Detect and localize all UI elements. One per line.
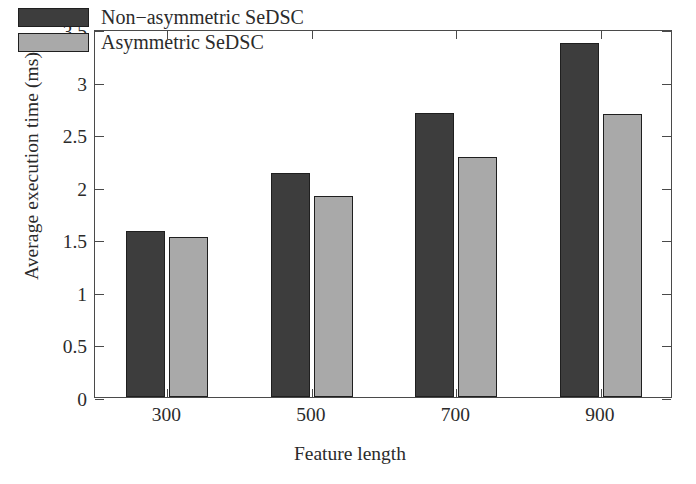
bar-500-series-1 (314, 196, 353, 397)
y-tick-label-3: 3 (77, 73, 95, 95)
y-tick-right-1 (662, 294, 671, 295)
x-tick-300 (167, 389, 168, 397)
y-tick-right-3.5 (662, 31, 671, 32)
bar-300-series-1 (169, 237, 208, 397)
y-tick-right-1.5 (662, 241, 671, 242)
y-tick-1: 1 (95, 294, 104, 295)
bar-700-series-1 (458, 157, 497, 397)
x-tick-label-300: 300 (152, 404, 181, 426)
y-tick-label-1: 1 (77, 283, 95, 305)
x-tick-label-500: 500 (296, 404, 325, 426)
bar-300-series-0 (126, 231, 165, 397)
x-tick-top-900 (601, 31, 602, 39)
plot-area: 00.511.522.533.5 (94, 30, 672, 398)
y-tick-label-0: 0 (77, 389, 95, 411)
x-tick-top-700 (456, 31, 457, 39)
x-tick-label-900: 900 (585, 404, 614, 426)
y-tick-label-1.5: 1.5 (63, 231, 95, 253)
bar-500-series-0 (271, 173, 310, 397)
legend-swatch-asymmetric (18, 33, 89, 52)
legend-label-non-asymmetric: Non−asymmetric SeDSC (101, 6, 304, 29)
bar-chart-figure: Average execution time (ms) 00.511.522.5… (0, 0, 696, 484)
x-tick-700 (456, 389, 457, 397)
y-tick-0.5: 0.5 (95, 346, 104, 347)
y-tick-3: 3 (95, 84, 104, 85)
y-axis-title: Average execution time (ms) (21, 0, 43, 376)
x-tick-label-700: 700 (441, 404, 470, 426)
y-tick-right-3 (662, 84, 671, 85)
x-axis-title-text: Feature length (294, 443, 406, 464)
x-axis-title: Feature length (0, 443, 696, 465)
y-tick-right-2 (662, 189, 671, 190)
bar-900-series-0 (560, 43, 599, 397)
y-tick-right-0 (662, 399, 671, 400)
y-tick-label-0.5: 0.5 (63, 336, 95, 358)
legend-entry-0: Non−asymmetric SeDSC (18, 5, 304, 30)
x-tick-900 (601, 389, 602, 397)
x-tick-top-500 (312, 31, 313, 39)
y-tick-right-2.5 (662, 136, 671, 137)
y-tick-right-0.5 (662, 346, 671, 347)
legend: Non−asymmetric SeDSC Asymmetric SeDSC (18, 5, 304, 55)
y-tick-2.5: 2.5 (95, 136, 104, 137)
y-tick-2: 2 (95, 189, 104, 190)
x-tick-500 (312, 389, 313, 397)
y-tick-label-2: 2 (77, 178, 95, 200)
legend-label-asymmetric: Asymmetric SeDSC (101, 31, 264, 54)
y-tick-label-2.5: 2.5 (63, 126, 95, 148)
bar-700-series-0 (415, 113, 454, 397)
legend-swatch-non-asymmetric (18, 8, 89, 27)
y-tick-0: 0 (95, 399, 104, 400)
bar-900-series-1 (603, 114, 642, 397)
y-tick-1.5: 1.5 (95, 241, 104, 242)
legend-entry-1: Asymmetric SeDSC (18, 30, 304, 55)
